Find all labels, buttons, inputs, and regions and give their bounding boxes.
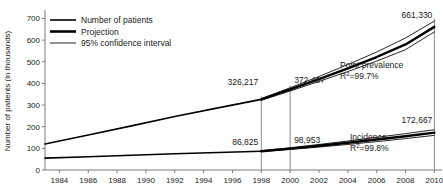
annotation-label-point-prevalence: Point prevalence	[340, 60, 404, 70]
legend-label-ci: 95% confidence interval	[81, 38, 171, 48]
legend-label-projection: Projection	[81, 27, 119, 37]
y-axis-tick-label: 400	[27, 79, 41, 88]
x-axis-tick-label: 2004	[339, 176, 357, 185]
y-axis-tick-label: 300	[27, 101, 41, 110]
line-chart: 0100200300400500600700198419861988199019…	[0, 0, 443, 195]
x-axis-tick-label: 2000	[281, 176, 299, 185]
x-axis-tick-label: 2006	[368, 176, 386, 185]
y-axis-tick-label: 200	[27, 123, 41, 132]
data-label-inc-2000: 98,953	[294, 135, 320, 145]
data-label-inc-1998: 86,825	[232, 137, 258, 147]
series-incidence-observed	[45, 151, 261, 158]
annotation-label-incidence: Incidence	[350, 132, 387, 142]
x-axis-tick-label: 1990	[137, 176, 155, 185]
x-axis-tick-label: 1992	[166, 176, 184, 185]
y-axis-tick-label: 500	[27, 58, 41, 67]
x-axis-tick-label: 1994	[195, 176, 213, 185]
data-label-prev-1998: 326,217	[228, 77, 259, 87]
y-axis-title: Number of patients (in thousands)	[3, 30, 12, 151]
y-axis-tick-label: 700	[27, 14, 41, 23]
y-axis-tick-label: 600	[27, 36, 41, 45]
annotation-stat-point-prevalence: R2=99.7%	[340, 71, 379, 81]
x-axis-tick-label: 1996	[224, 176, 242, 185]
data-label-prev-2010: 661,330	[402, 10, 433, 20]
x-axis-tick-label: 1988	[108, 176, 126, 185]
x-axis-tick-label: 2008	[397, 176, 415, 185]
series-incidence-ci-upper	[261, 130, 434, 151]
x-axis-tick-label: 1998	[252, 176, 270, 185]
annotation-stat-incidence: R2=99.8%	[350, 143, 389, 153]
data-label-prev-2000: 372,407	[294, 75, 325, 85]
x-axis-tick-label: 1986	[79, 176, 97, 185]
x-axis-tick-label: 1984	[51, 176, 69, 185]
y-axis-tick-label: 100	[27, 144, 41, 153]
x-axis-tick-label: 2002	[310, 176, 328, 185]
x-axis-tick-label: 2010	[425, 176, 443, 185]
y-axis-tick-label: 0	[36, 166, 41, 175]
chart-container: 0100200300400500600700198419861988199019…	[0, 0, 443, 195]
legend-label-observed: Number of patients	[81, 15, 153, 25]
data-label-inc-2010: 172,667	[402, 115, 433, 125]
series-point-prevalence-observed	[45, 99, 261, 144]
